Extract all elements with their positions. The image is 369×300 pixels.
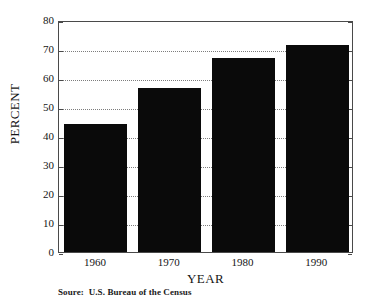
x-tick-label: 1980 [206,256,280,269]
y-tick-label: 50 [24,102,54,113]
axis-tick [59,254,63,255]
y-tick-label: 30 [24,160,54,171]
axis-tick [59,109,63,110]
y-axis-tick-labels: 80706050403020100 [24,21,54,253]
source-caption: Soure: U.S. Bureau of the Census [58,287,191,298]
y-tick-label: 10 [24,218,54,229]
x-tick-label: 1960 [58,256,132,269]
axis-tick [59,138,63,139]
y-tick-label: 80 [24,15,54,26]
y-tick-label: 0 [24,247,54,258]
axis-tick [59,22,63,23]
y-tick-label: 60 [24,73,54,84]
plot-inner [59,22,352,252]
y-tick-label: 70 [24,44,54,55]
x-tick-label: 1990 [279,256,353,269]
axis-tick [59,80,63,81]
y-tick-label: 40 [24,131,54,142]
x-tick-label: 1970 [132,256,206,269]
x-axis-tick-labels: 1960197019801990 [58,256,353,272]
axis-tick [348,22,352,23]
y-tick-label: 20 [24,189,54,200]
bar [212,58,275,252]
bar-chart-figure: PERCENT 80706050403020100 19601970198019… [0,0,369,300]
axis-tick [59,225,63,226]
axis-tick [59,196,63,197]
axis-tick [348,254,352,255]
bar [64,124,127,252]
plot-area [58,21,353,253]
axis-tick [59,167,63,168]
x-axis-title: YEAR [58,271,353,287]
bar [286,45,349,252]
bar [138,88,201,252]
y-axis-title: PERCENT [7,69,23,159]
axis-tick [59,51,63,52]
